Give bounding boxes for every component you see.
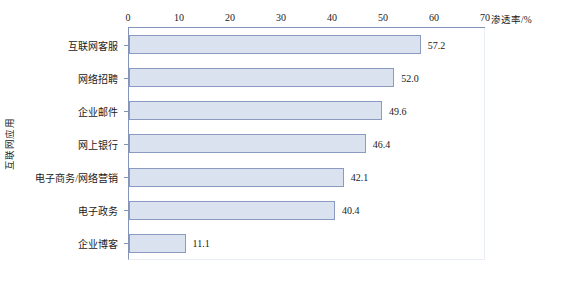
category-label: 电子政务 xyxy=(78,203,118,218)
category-label: 电子商务/网络营销 xyxy=(35,170,118,185)
bar-row: 46.4 xyxy=(129,127,484,160)
x-tick-label-20: 20 xyxy=(225,12,235,23)
category-label: 企业博客 xyxy=(78,236,118,251)
x-tick-label-70: 70 xyxy=(480,12,490,23)
category-label: 互联网客服 xyxy=(68,37,118,52)
category-label-column: 互联网客服网络招聘企业邮件网上银行电子商务/网络营销电子政务企业博客 xyxy=(0,28,124,260)
bar xyxy=(129,234,186,253)
category-label: 网络招聘 xyxy=(78,70,118,85)
x-tick-label-30: 30 xyxy=(276,12,286,23)
x-axis-title: 渗透率/% xyxy=(491,12,532,26)
bar-row: 49.6 xyxy=(129,94,484,127)
bar-row: 40.4 xyxy=(129,194,484,227)
bar-row: 42.1 xyxy=(129,161,484,194)
bar xyxy=(129,134,366,153)
x-axis-tick-labels: 010203040506070 xyxy=(128,12,485,28)
bar-row: 52.0 xyxy=(129,61,484,94)
bar xyxy=(129,201,335,220)
category-label: 网上银行 xyxy=(78,137,118,152)
x-tick-label-40: 40 xyxy=(327,12,337,23)
bar-row: 57.2 xyxy=(129,28,484,61)
bar-value-label: 40.4 xyxy=(342,205,360,216)
x-tick-label-60: 60 xyxy=(429,12,439,23)
x-tick-label-50: 50 xyxy=(378,12,388,23)
horizontal-bar-chart: 互联网应用 010203040506070 渗透率/% 互联网客服网络招聘企业邮… xyxy=(0,0,562,288)
bar xyxy=(129,68,394,87)
bar-value-label: 46.4 xyxy=(373,138,391,149)
bar xyxy=(129,168,344,187)
plot-area: 57.252.049.646.442.140.411.1 xyxy=(128,28,485,260)
bar-row: 11.1 xyxy=(129,227,484,260)
bar xyxy=(129,101,382,120)
bar-value-label: 52.0 xyxy=(401,72,419,83)
bar-value-label: 57.2 xyxy=(428,39,446,50)
x-tick-label-0: 0 xyxy=(126,12,131,23)
x-tick-label-10: 10 xyxy=(174,12,184,23)
bar-value-label: 42.1 xyxy=(351,172,369,183)
bar-value-label: 11.1 xyxy=(193,238,210,249)
category-label: 企业邮件 xyxy=(78,103,118,118)
bar-value-label: 49.6 xyxy=(389,105,407,116)
bar xyxy=(129,35,421,54)
